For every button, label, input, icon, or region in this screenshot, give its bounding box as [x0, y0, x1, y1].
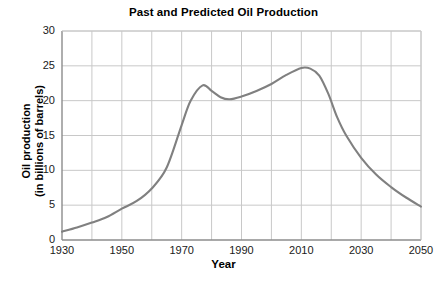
x-tick-label: 2050 — [399, 244, 443, 256]
x-tick-label: 2030 — [339, 244, 383, 256]
y-tick-label: 30 — [29, 24, 55, 36]
y-axis-title-line1: Oil production — [20, 56, 33, 226]
x-axis-title: Year — [0, 258, 447, 270]
plot-area-svg — [0, 0, 447, 281]
chart-figure: Past and Predicted Oil Production 051015… — [0, 0, 447, 281]
x-tick-label: 1970 — [160, 244, 204, 256]
x-tick-label: 1930 — [40, 244, 84, 256]
x-tick-label: 1990 — [220, 244, 264, 256]
x-tick-label: 2010 — [279, 244, 323, 256]
y-axis-title: Oil production (in billions of barrels) — [20, 56, 46, 226]
x-tick-label: 1950 — [100, 244, 144, 256]
y-axis-title-line2: (in billions of barrels) — [33, 56, 46, 226]
